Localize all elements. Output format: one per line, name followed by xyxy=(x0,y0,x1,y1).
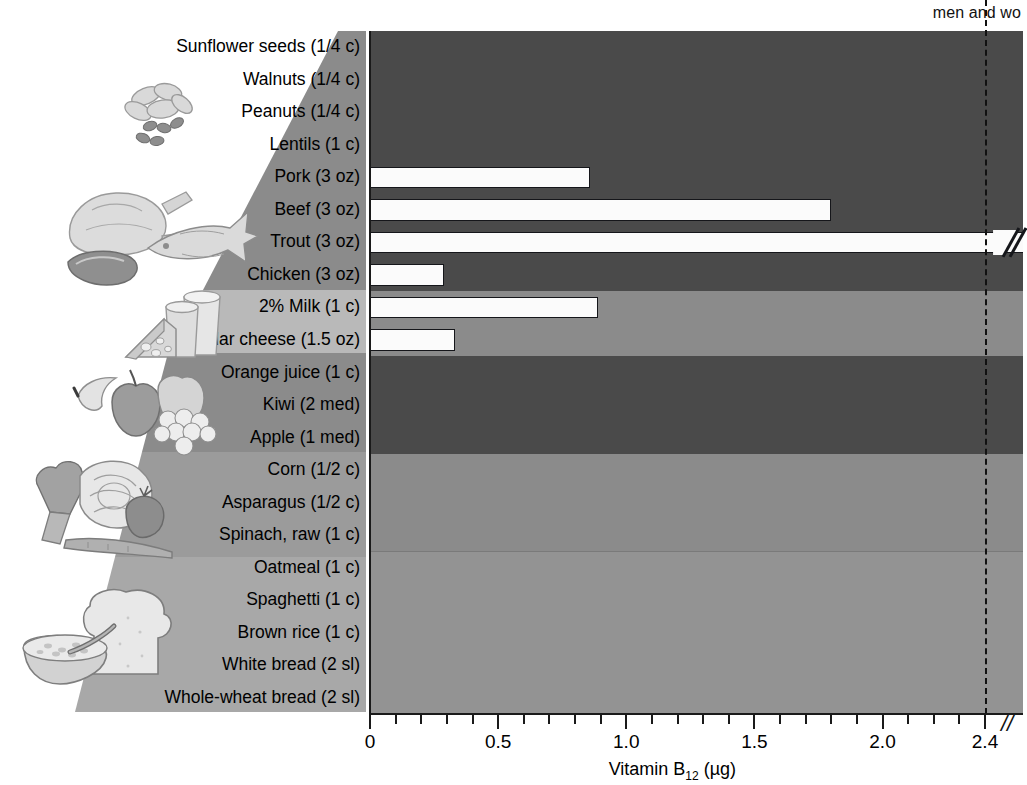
category-label: Peanuts (1/4 c) xyxy=(241,103,360,121)
bar-meat-fish-poultry-4 xyxy=(370,167,590,188)
nuts-icon xyxy=(116,78,212,154)
x-tick-label: 0.5 xyxy=(485,731,511,753)
bar-meat-fish-poultry-6 xyxy=(370,232,1023,253)
x-axis-title: Vitamin B12 (µg) xyxy=(609,759,736,783)
bar-dairy-8 xyxy=(370,297,598,318)
rda-annotation-text: men and wo xyxy=(933,4,1021,22)
category-label: White bread (2 sl) xyxy=(222,656,360,674)
y-axis-line xyxy=(369,31,371,714)
x-tick-minor xyxy=(472,715,474,724)
category-label: Brown rice (1 c) xyxy=(237,624,360,642)
x-tick-minor xyxy=(523,715,525,724)
x-tick-label: 2.4 xyxy=(972,731,998,753)
x-tick-minor xyxy=(933,715,935,724)
x-tick-minor xyxy=(907,715,909,724)
category-label: 2% Milk (1 c) xyxy=(259,298,360,316)
x-tick-label: 0 xyxy=(365,731,376,753)
bar-meat-fish-poultry-5 xyxy=(370,199,831,220)
vegetables-icon xyxy=(22,452,197,562)
x-tick-minor xyxy=(420,715,422,724)
x-tick-label: 1.5 xyxy=(741,731,767,753)
food-group-band xyxy=(370,356,1023,454)
category-label: Corn (1/2 c) xyxy=(268,461,360,479)
x-tick-major xyxy=(497,715,499,729)
category-label: Lentils (1 c) xyxy=(270,136,360,154)
category-label: Whole-wheat bread (2 sl) xyxy=(165,689,361,707)
x-tick-minor xyxy=(548,715,550,724)
dairy-icon xyxy=(122,283,242,369)
x-tick-minor xyxy=(728,715,730,724)
x-tick-minor xyxy=(830,715,832,724)
category-label: Kiwi (2 med) xyxy=(263,396,360,414)
category-label: Beef (3 oz) xyxy=(274,201,360,219)
category-label: Apple (1 med) xyxy=(250,429,360,447)
x-tick-major xyxy=(984,715,986,729)
x-axis-ticks: 00.51.01.52.02.4//Vitamin B12 (µg) xyxy=(0,715,1023,785)
x-tick-minor xyxy=(779,715,781,724)
x-tick-minor xyxy=(651,715,653,724)
food-group-band xyxy=(370,551,1023,714)
x-axis-break-symbol: // xyxy=(1001,711,1013,737)
x-tick-minor xyxy=(600,715,602,724)
x-tick-minor xyxy=(395,715,397,724)
x-tick-label: 2.0 xyxy=(869,731,895,753)
x-tick-minor xyxy=(856,715,858,724)
x-tick-minor xyxy=(805,715,807,724)
category-label: Oatmeal (1 c) xyxy=(254,559,360,577)
x-tick-major xyxy=(369,715,371,729)
x-tick-label: 1.0 xyxy=(613,731,639,753)
category-label: Pork (3 oz) xyxy=(274,168,360,186)
category-label: Asparagus (1/2 c) xyxy=(222,494,360,512)
band-separator xyxy=(370,551,1023,552)
category-label: Spaghetti (1 c) xyxy=(246,591,360,609)
x-tick-minor xyxy=(958,715,960,724)
x-tick-major xyxy=(753,715,755,729)
category-label: Trout (3 oz) xyxy=(270,233,360,251)
fruits-icon xyxy=(72,368,222,460)
category-label: Sunflower seeds (1/4 c) xyxy=(176,38,360,56)
plot-area xyxy=(370,31,1023,714)
rda-dashed-line xyxy=(985,0,987,714)
x-tick-minor xyxy=(574,715,576,724)
x-tick-major xyxy=(882,715,884,729)
grains-icon xyxy=(16,582,176,692)
category-label: Spinach, raw (1 c) xyxy=(219,526,360,544)
category-label: Chicken (3 oz) xyxy=(247,266,360,284)
bar-meat-fish-poultry-7 xyxy=(370,264,444,285)
x-tick-minor xyxy=(677,715,679,724)
meat-fish-poultry-icon xyxy=(62,178,262,288)
food-group-band xyxy=(370,454,1023,552)
x-tick-major xyxy=(625,715,627,729)
x-tick-minor xyxy=(446,715,448,724)
category-label: Walnuts (1/4 c) xyxy=(243,71,360,89)
bar-dairy-9 xyxy=(370,329,455,350)
x-tick-minor xyxy=(702,715,704,724)
